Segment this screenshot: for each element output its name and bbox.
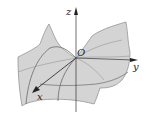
x-axis-label: x — [37, 91, 43, 102]
origin-label: O — [77, 47, 85, 58]
z-axis-label: z — [65, 6, 72, 17]
z-axis-arrowhead — [74, 7, 78, 15]
saddle-surface-diagram: z O y x — [0, 0, 151, 118]
y-axis-label: y — [132, 61, 139, 72]
saddle-surface — [18, 22, 130, 106]
